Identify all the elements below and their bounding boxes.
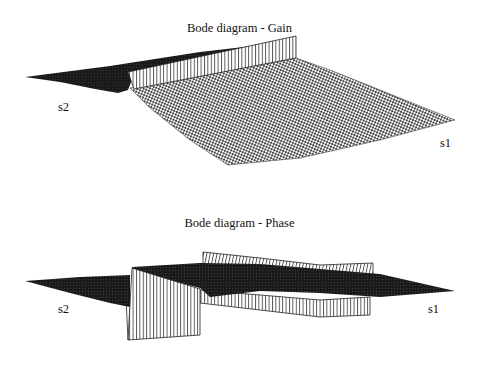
gain-plot: Bode diagram - Gain s2 s1	[0, 0, 479, 185]
phase-plot: Bode diagram - Phase s2 s1	[0, 185, 479, 369]
gain-axis-label-s2: s2	[58, 100, 69, 115]
gain-surface	[0, 0, 479, 185]
gain-axis-label-s1: s1	[440, 136, 451, 151]
phase-axis-label-s2: s2	[58, 302, 69, 317]
phase-dark-left	[25, 275, 130, 307]
phase-axis-label-s1: s1	[428, 302, 439, 317]
phase-surface	[0, 185, 479, 369]
